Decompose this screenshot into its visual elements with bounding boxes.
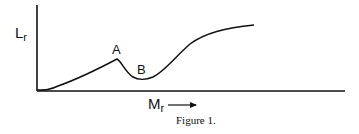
figure-caption: Figure 1. [176,114,216,126]
y-axis-label: Lr [15,24,27,43]
x-axis-label: Mr [148,95,164,114]
figure: Lr Mr A B Figure 1. [0,0,359,134]
x-arrow-icon [190,102,197,108]
curve-line [37,25,254,90]
annotation-b: B [137,62,146,77]
annotation-a: A [112,42,121,57]
